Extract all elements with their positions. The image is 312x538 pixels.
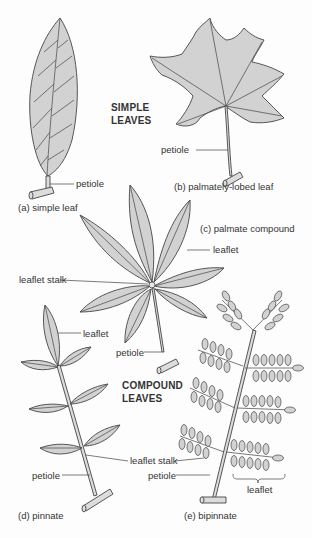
label-d-petiole: petiole — [32, 471, 60, 481]
caption-b: (b) palmately-lobed leaf — [174, 182, 273, 192]
header-line-2: LEAVES — [111, 115, 151, 128]
label-e-petiole: petiole — [148, 471, 176, 481]
simple-leaves-header: SIMPLE LEAVES — [111, 102, 151, 127]
palmately-lobed-leaf-drawing — [150, 18, 284, 187]
simple-leaf-drawing — [29, 18, 77, 199]
label-b-petiole: petiole — [161, 145, 189, 155]
label-c-leaflet-stalk: leaflet stalk — [19, 275, 67, 285]
header-line-1: SIMPLE — [111, 102, 151, 115]
header-line-2: LEAVES — [122, 393, 183, 406]
caption-d: (d) pinnate — [18, 511, 63, 521]
bipinnate-drawing — [179, 290, 304, 503]
label-a-petiole: petiole — [76, 179, 104, 189]
leaf-types-diagram: SIMPLE LEAVES COMPOUND LEAVES petiole (a… — [0, 0, 312, 538]
label-c-petiole: petiole — [116, 348, 144, 358]
label-c-leaflet: leaflet — [213, 245, 238, 255]
header-line-1: COMPOUND — [122, 380, 183, 393]
label-d-leaflet-stalk: leaflet stalk — [130, 456, 178, 466]
label-e-leaflet: leaflet — [247, 485, 272, 495]
label-d-leaflet: leaflet — [83, 329, 108, 339]
caption-a: (a) simple leaf — [18, 203, 78, 213]
caption-c: (c) palmate compound — [200, 224, 295, 234]
leaflet-brace — [233, 474, 285, 483]
compound-leaves-header: COMPOUND LEAVES — [122, 380, 183, 405]
caption-e: (e) bipinnate — [184, 511, 237, 521]
